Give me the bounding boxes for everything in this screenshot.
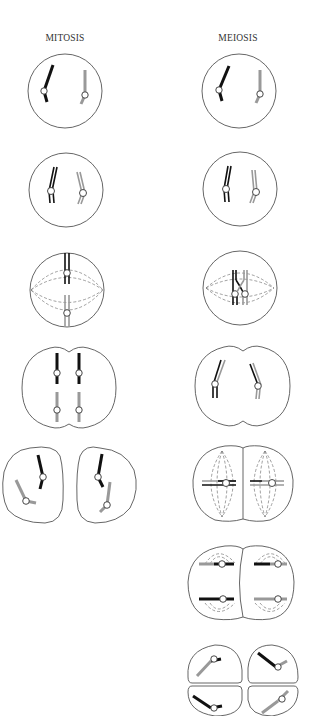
cell-division-diagram — [0, 0, 311, 716]
meiosis-stage-4-cell — [195, 346, 290, 426]
mitosis-stage-2-cell — [29, 153, 103, 227]
meiosis-stage-2-cell — [203, 152, 277, 226]
mitosis-stage-5-right-cell — [77, 447, 136, 523]
meiosis-stage-1-cell — [202, 54, 276, 128]
meiosis-stage-6-cells — [188, 546, 294, 620]
meiosis-daughter-cell-2 — [248, 645, 298, 683]
meiosis-stage-5-cells — [193, 446, 293, 522]
mitosis-stage-1-cell — [28, 54, 102, 128]
mitosis-stage-5-left-cell — [3, 447, 64, 523]
mitosis-stage-3-cell — [30, 253, 104, 327]
meiosis-daughter-cell-3 — [188, 686, 242, 716]
mitosis-stage-4-cell — [22, 347, 116, 428]
meiosis-stage-3-cell — [203, 251, 277, 325]
meiosis-daughter-cell-1 — [188, 645, 242, 683]
meiosis-daughter-cell-4 — [248, 686, 298, 716]
